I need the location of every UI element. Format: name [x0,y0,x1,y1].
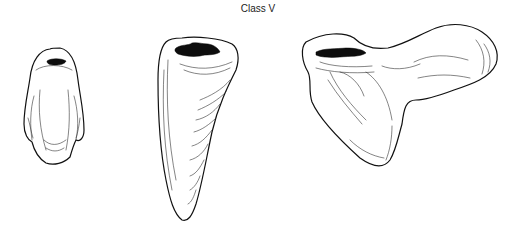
canine-drawing [158,37,238,220]
molar-drawing [302,25,497,166]
incisor-drawing [24,48,84,164]
teeth-illustration [0,0,508,244]
